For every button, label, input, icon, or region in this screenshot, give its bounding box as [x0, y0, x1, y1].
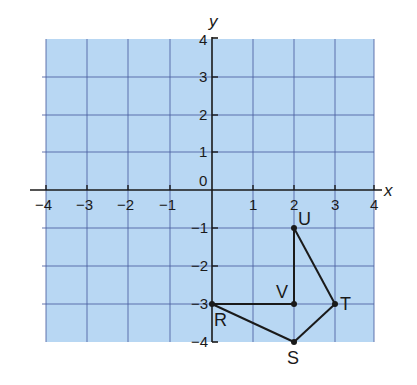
x-tick-label: −3: [76, 196, 93, 213]
y-tick-label: 1: [199, 143, 207, 160]
x-tick-label: 4: [370, 196, 378, 213]
point-U: [291, 225, 297, 231]
point-V: [291, 301, 297, 307]
point-label-S: S: [287, 348, 299, 368]
point-R: [209, 301, 215, 307]
point-T: [332, 301, 338, 307]
x-axis-label: x: [383, 181, 393, 200]
point-S: [291, 339, 297, 345]
point-label-V: V: [276, 282, 288, 302]
origin-label: 0: [199, 172, 207, 189]
y-axis-label: y: [208, 12, 219, 31]
point-label-T: T: [340, 294, 351, 314]
y-tick-label: −4: [191, 333, 208, 350]
y-tick-label: −3: [191, 295, 208, 312]
y-tick-label: 3: [199, 68, 207, 85]
x-tick-label: 3: [331, 196, 339, 213]
x-tick-label: −2: [117, 196, 134, 213]
point-label-U: U: [298, 209, 311, 229]
x-tick-label: −1: [159, 196, 176, 213]
coordinate-grid-diagram: y x −4 −3 −2 −1 1 2 3 4 4 3 2 1 0 −1 −2 …: [0, 0, 417, 385]
x-tick-label: 1: [249, 196, 257, 213]
point-label-R: R: [214, 310, 227, 330]
x-tick-label: −4: [35, 196, 52, 213]
y-tick-label: 4: [199, 31, 207, 48]
y-tick-label: −2: [191, 257, 208, 274]
y-tick-label: 2: [199, 106, 207, 123]
y-tick-label: −1: [191, 219, 208, 236]
